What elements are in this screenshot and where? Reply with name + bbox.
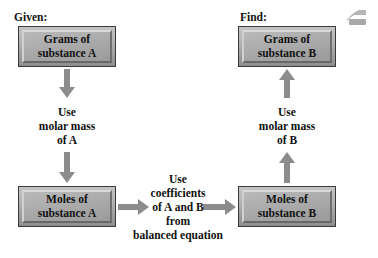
box-grams-of-substance-a-inner: Grams of substance A [22, 30, 112, 63]
arrow-up-molar-mass-b-to-grams-b [278, 69, 296, 99]
label-molar-b-line3: of B [237, 133, 337, 147]
box-grams-of-substance-a: Grams of substance A [18, 26, 116, 67]
box-moles-of-substance-a-inner: Moles of substance A [22, 190, 112, 223]
find-caption: Find: [240, 11, 267, 23]
label-coeff-line5: balanced equation [122, 228, 234, 242]
label-use-molar-mass-of-b: Use molar mass of B [237, 105, 337, 147]
stoichiometry-flow-diagram: Given: Find: Grams of substance A Grams … [0, 0, 378, 258]
box-grams-b-line1: Grams of [264, 33, 310, 47]
scan-artifact-icon [346, 9, 370, 27]
label-coeff-line2: coefficients [122, 186, 234, 200]
label-molar-a-line2: molar mass [17, 119, 117, 133]
box-moles-b-line2: substance B [258, 207, 316, 221]
label-coeff-line4: from [122, 214, 234, 228]
box-moles-of-substance-b: Moles of substance B [238, 186, 336, 227]
arrow-up-moles-b-to-molar-mass-b [278, 152, 296, 184]
given-caption: Given: [14, 11, 47, 23]
arrow-down-molar-mass-a-to-moles-a [58, 152, 76, 184]
label-molar-b-line2: molar mass [237, 119, 337, 133]
box-grams-of-substance-b-inner: Grams of substance B [242, 30, 332, 63]
box-moles-of-substance-b-inner: Moles of substance B [242, 190, 332, 223]
box-moles-a-line2: substance A [38, 207, 96, 221]
box-moles-a-line1: Moles of [46, 193, 88, 207]
box-grams-a-line1: Grams of [44, 33, 90, 47]
label-coeff-line1: Use [122, 172, 234, 186]
label-use-coefficients-balanced-equation: Use coefficients of A and B from balance… [122, 172, 234, 242]
arrow-down-grams-a-to-molar-mass-a [58, 69, 76, 99]
label-molar-a-line1: Use [17, 105, 117, 119]
label-coeff-line3: of A and B [122, 200, 234, 214]
box-moles-of-substance-a: Moles of substance A [18, 186, 116, 227]
label-use-molar-mass-of-a: Use molar mass of A [17, 105, 117, 147]
box-grams-b-line2: substance B [258, 47, 316, 61]
box-grams-of-substance-b: Grams of substance B [238, 26, 336, 67]
box-moles-b-line1: Moles of [266, 193, 308, 207]
box-grams-a-line2: substance A [38, 47, 96, 61]
label-molar-a-line3: of A [17, 133, 117, 147]
label-molar-b-line1: Use [237, 105, 337, 119]
